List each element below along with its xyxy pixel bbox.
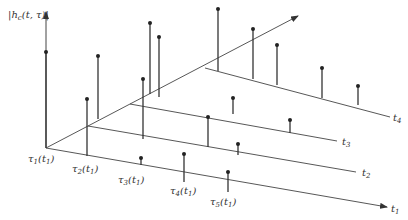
stem-dot-t2-tau4: [236, 142, 240, 146]
stem-dot-t3-tau3: [231, 96, 235, 100]
tau4-label: τ4(t1): [170, 185, 196, 198]
stem-dot-t3-tau1: [148, 21, 152, 25]
tau3-label: τ3(t1): [118, 174, 144, 187]
channel-impulse-response-diagram: |hc(t, τ)| t1 t2 t3 t4 τ1(t1) τ2(t1) τ3(…: [0, 0, 408, 220]
t3-label: t3: [342, 136, 351, 149]
stem-dot-t2-tau2: [141, 77, 145, 81]
stem-dot-t4-tau5: [356, 84, 360, 88]
stem-dot-t2-tau3: [206, 115, 210, 119]
magnitude-axis-label: |hc(t, τ)|: [8, 9, 49, 22]
stem-dot-t4-tau1: [216, 7, 220, 11]
time-axis: [46, 16, 298, 148]
stem-dot-t1-tau4: [182, 152, 186, 156]
t1-label: t1: [391, 203, 400, 216]
stem-dot-t3-tau4: [288, 118, 292, 122]
tau2-label: τ2(t1): [72, 163, 98, 176]
stem-dot-t1-tau1: [44, 50, 48, 54]
stem-dot-t3-tau2: [157, 35, 161, 39]
stem-dot-t1-tau2: [85, 97, 89, 101]
stem-dot-t4-tau4: [320, 66, 324, 70]
t4-label: t4: [393, 112, 402, 125]
t2-label: t2: [362, 167, 371, 180]
baseline-t1: [46, 148, 387, 207]
stem-dot-t1-tau3: [139, 156, 143, 160]
stem-dot-t4-tau2: [251, 27, 255, 31]
tau1-label: τ1(t1): [28, 153, 54, 166]
tau5-label: τ5(t1): [210, 196, 236, 209]
diagram-svg: |hc(t, τ)| t1 t2 t3 t4 τ1(t1) τ2(t1) τ3(…: [0, 0, 408, 220]
stem-dot-t4-tau3: [275, 43, 279, 47]
stem-dot-t2-tau1: [96, 54, 100, 58]
baseline-t2: [88, 126, 356, 172]
stem-dot-t1-tau5: [226, 170, 230, 174]
